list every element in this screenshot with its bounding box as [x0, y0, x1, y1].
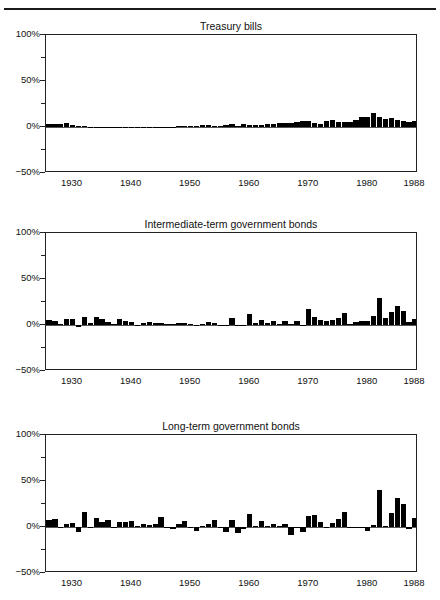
x-axis-label: 1960 — [229, 577, 269, 588]
bar — [135, 325, 140, 326]
bar — [94, 518, 99, 527]
bar — [99, 522, 104, 527]
y-axis-tick-minor — [41, 549, 45, 550]
y-axis-label: 0% — [0, 520, 40, 531]
bar — [318, 522, 323, 527]
chart-title: Treasury bills — [45, 20, 417, 32]
bar — [312, 515, 317, 527]
bar — [88, 127, 93, 128]
bar — [52, 519, 57, 527]
bar — [129, 127, 134, 128]
bar — [324, 527, 329, 528]
x-axis-label: 1960 — [229, 375, 269, 386]
bar — [123, 127, 128, 128]
x-axis-label: 1988 — [394, 577, 434, 588]
bar — [359, 527, 364, 528]
bar — [347, 324, 352, 325]
bar — [300, 527, 305, 532]
bar — [46, 520, 51, 527]
y-axis-label: 100% — [0, 28, 40, 39]
bar — [82, 317, 87, 325]
bar — [371, 525, 376, 527]
bar — [212, 323, 217, 325]
bar — [253, 526, 258, 527]
bar — [200, 125, 205, 127]
chart-title: Long-term government bonds — [45, 420, 417, 432]
bar — [182, 323, 187, 325]
bar — [282, 321, 287, 325]
x-axis-label: 1940 — [111, 177, 151, 188]
bar — [253, 125, 258, 127]
x-axis-label: 1930 — [52, 577, 92, 588]
bar — [395, 120, 400, 127]
x-axis-label: 1970 — [288, 375, 328, 386]
plot-area — [45, 434, 417, 572]
chart-panel-treasury-bills: Treasury bills — [0, 20, 440, 198]
bar — [176, 524, 181, 527]
bar — [182, 521, 187, 527]
bar — [282, 524, 287, 527]
bar — [200, 324, 205, 325]
bar — [129, 521, 134, 527]
x-axis-label: 1970 — [288, 577, 328, 588]
bar — [342, 122, 347, 127]
y-axis-label: 100% — [0, 428, 40, 439]
bar-series — [46, 233, 416, 369]
bar — [241, 527, 246, 529]
bar — [401, 504, 406, 527]
bar — [300, 121, 305, 127]
bar — [129, 322, 134, 325]
bar — [141, 524, 146, 527]
bar — [105, 520, 110, 527]
figure-returns-by-asset-class: Treasury bills Intermediate-term governm… — [0, 0, 440, 600]
bar — [247, 125, 252, 127]
x-axis-label: 1988 — [394, 177, 434, 188]
bar — [164, 527, 169, 528]
bar — [147, 322, 152, 325]
bar — [223, 125, 228, 127]
x-axis-label: 1980 — [347, 177, 387, 188]
bar — [76, 325, 81, 327]
bar — [330, 320, 335, 325]
bar — [259, 521, 264, 527]
bar — [194, 126, 199, 127]
bar — [365, 527, 370, 531]
bar — [271, 321, 276, 325]
bar — [377, 298, 382, 325]
y-axis-tick — [40, 126, 45, 127]
bar — [64, 123, 69, 127]
bar — [135, 526, 140, 527]
bar — [359, 117, 364, 127]
bar — [70, 523, 75, 527]
bar — [153, 127, 158, 128]
bar — [241, 325, 246, 326]
bar — [111, 324, 116, 325]
bar — [235, 126, 240, 127]
bar — [235, 325, 240, 326]
x-axis-label: 1950 — [170, 177, 210, 188]
bar — [105, 127, 110, 128]
bar — [94, 317, 99, 325]
bar — [117, 319, 122, 325]
x-axis-label: 1988 — [394, 375, 434, 386]
bar — [111, 127, 116, 128]
bar — [188, 324, 193, 325]
bar — [365, 321, 370, 325]
bar — [58, 527, 63, 528]
bar — [336, 318, 341, 325]
bar — [365, 117, 370, 127]
bar — [229, 124, 234, 127]
y-axis-tick-minor — [41, 149, 45, 150]
bar — [371, 113, 376, 127]
bar — [265, 526, 270, 527]
y-axis-label: −50% — [0, 166, 40, 177]
bar — [82, 512, 87, 527]
y-axis-tick-minor — [41, 347, 45, 348]
bar — [235, 527, 240, 533]
bar — [324, 121, 329, 127]
bar — [99, 319, 104, 325]
y-axis-tick-minor — [41, 103, 45, 104]
y-axis-tick-minor — [41, 255, 45, 256]
bar — [401, 121, 406, 127]
x-axis-label: 1980 — [347, 375, 387, 386]
